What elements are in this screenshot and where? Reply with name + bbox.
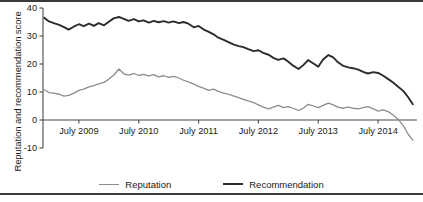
y-tick-label: 0 xyxy=(32,115,37,125)
y-tick-label: 40 xyxy=(27,3,37,13)
legend-label-reputation: Reputation xyxy=(125,179,171,190)
y-tick-label: 20 xyxy=(27,59,37,69)
legend-item-reputation: Reputation xyxy=(99,179,171,190)
y-axis-label: Reputation and recommendation score xyxy=(12,7,23,177)
legend-swatch-reputation-icon xyxy=(99,184,119,185)
chart-legend: Reputation Recommendation xyxy=(0,176,423,192)
x-tick-label: July 2014 xyxy=(358,126,397,136)
line-chart-svg: -10010203040July 2009July 2010July 2011J… xyxy=(0,2,423,175)
series-line-recommendation xyxy=(44,17,413,104)
legend-label-recommendation: Recommendation xyxy=(249,179,323,190)
y-tick-label: 10 xyxy=(27,87,37,97)
x-tick-label: July 2012 xyxy=(239,126,278,136)
figure-bottom-border xyxy=(0,193,423,195)
x-tick-label: July 2010 xyxy=(119,126,158,136)
x-tick-label: July 2009 xyxy=(59,126,98,136)
chart-figure: -10010203040July 2009July 2010July 2011J… xyxy=(0,0,423,202)
y-tick-label: -10 xyxy=(24,143,37,153)
legend-swatch-recommendation-icon xyxy=(223,183,243,185)
legend-item-recommendation: Recommendation xyxy=(223,179,323,190)
y-tick-label: 30 xyxy=(27,31,37,41)
x-tick-label: July 2013 xyxy=(299,126,338,136)
x-tick-label: July 2011 xyxy=(179,126,218,136)
plot-area: -10010203040July 2009July 2010July 2011J… xyxy=(0,2,423,175)
